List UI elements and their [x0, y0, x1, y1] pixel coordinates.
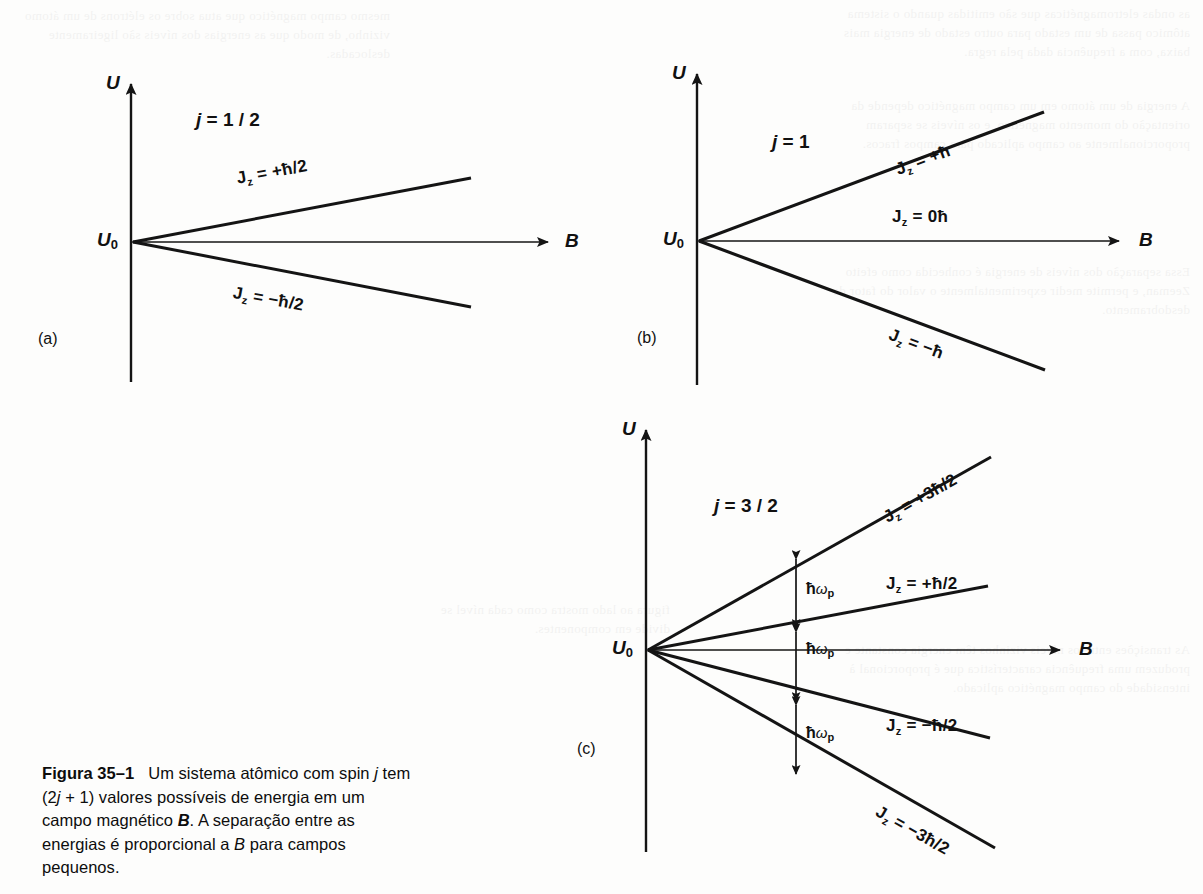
panel-b-origin-subscript: 0	[677, 236, 684, 251]
panel-c-y-axis-label: U	[622, 418, 636, 440]
panel-a-spin-symbol: j	[196, 109, 201, 130]
panel-a-level-label-plus-half: Jz = +ħ/2	[235, 156, 309, 190]
panel-a-level-label-minus-half: Jz = −ħ/2	[231, 283, 305, 317]
panel-a-level-plus-half	[133, 178, 471, 242]
panel-b-spin-symbol: j	[772, 131, 777, 152]
panel-b-level-label-plus-hbar: Jz = +ħ	[893, 141, 954, 181]
panel-c-spin-label: j = 3 / 2	[714, 495, 778, 517]
panel-c-spacing-label-top: ħωp	[806, 580, 834, 599]
panel-a-x-axis-label: B	[565, 230, 579, 252]
panel-b-y-axis-label: U	[672, 62, 686, 84]
figure-caption: Figura 35–1 Um sistema atômico com spin …	[42, 762, 414, 880]
panel-a-origin-letter: U	[97, 229, 111, 250]
panel-b-spin-value: = 1	[783, 131, 810, 152]
panel-b-x-axis-label: B	[1139, 229, 1153, 251]
panel-b-level-plus-hbar	[699, 112, 1044, 241]
jz-value: = −3ħ/2	[891, 812, 953, 858]
jz-value: = −ħ/2	[252, 287, 306, 315]
panel-b-level-minus-hbar	[699, 241, 1045, 370]
panel-c-artwork	[646, 430, 1060, 852]
jz-value: = +3ħ/2	[898, 470, 960, 516]
panel-a-y-axis-label: U	[106, 72, 120, 94]
jz-subscript: z	[241, 294, 249, 307]
panel-b-tag: (b)	[637, 329, 657, 347]
panel-c-tag: (c)	[577, 740, 596, 758]
panel-b-spin-label: j = 1	[772, 131, 810, 153]
jz-value: = +ħ/2	[255, 156, 309, 184]
panel-c-level-label-minus-half: Jz = −ħ/2	[886, 716, 958, 737]
figure-caption-line-1: Figura 35–1 Um sistema atômico com spin …	[42, 764, 410, 876]
panel-c-spin-symbol: j	[714, 495, 719, 516]
jz-subscript: z	[896, 725, 902, 737]
panel-c-level-label-minus-three-half: Jz = −3ħ/2	[872, 802, 953, 860]
panel-b-level-label-zero-hbar: Jz = 0ħ	[892, 207, 948, 228]
panel-a-tag: (a)	[38, 330, 58, 348]
jz-subscript: z	[896, 583, 902, 595]
panel-c-spacing-label-bottom: ħωp	[806, 724, 834, 743]
jz-subscript: z	[246, 175, 254, 188]
page-bleedthrough-bottom-mid: figura ao lado mostra como cada nível se…	[430, 600, 670, 638]
jz-symbol: J	[886, 716, 896, 735]
panel-c-level-minus-three-half	[648, 650, 995, 848]
panel-c-spacing-label-middle: ħωp	[806, 640, 834, 659]
panel-a-origin-subscript: 0	[111, 237, 118, 252]
page-bleedthrough-bottom-right: As transições entre os níveis vizinhos t…	[820, 640, 1190, 697]
page-bleedthrough-mid-right: A energia de um átomo em um campo magnét…	[820, 96, 1190, 153]
omega-symbol: ω	[816, 724, 828, 741]
panel-a-artwork	[131, 84, 548, 382]
panel-c-x-axis-label: B	[1079, 638, 1093, 660]
omega-subscript: p	[827, 587, 834, 599]
panel-a-origin-label: U0	[97, 229, 118, 252]
omega-symbol: ω	[816, 640, 828, 657]
hbar-symbol: ħ	[806, 724, 816, 741]
page-bleedthrough-top-right: as ondas eletromagnéticas que são emitid…	[820, 4, 1190, 61]
panel-b-origin-label: U0	[663, 228, 684, 251]
jz-value: = −ħ	[906, 332, 947, 362]
panel-b-origin-letter: U	[663, 228, 677, 249]
panel-a-spin-value: = 1 / 2	[207, 109, 260, 130]
hbar-symbol: ħ	[806, 640, 816, 657]
omega-symbol: ω	[816, 580, 828, 597]
figure-page: mesmo campo magnético que atua sobre os …	[0, 0, 1203, 894]
page-bleedthrough-lower-right: Essa separação dos níveis de energia é c…	[820, 262, 1190, 319]
jz-symbol: J	[892, 207, 902, 226]
panel-a-spin-label: j = 1 / 2	[196, 109, 260, 131]
hbar-symbol: ħ	[806, 580, 816, 597]
panel-c-origin-subscript: 0	[626, 645, 633, 660]
jz-symbol: J	[886, 574, 896, 593]
jz-value: = +ħ/2	[907, 574, 958, 593]
panel-b-level-label-minus-hbar: Jz = −ħ	[886, 325, 947, 365]
page-bleedthrough-top-left: mesmo campo magnético que atua sobre os …	[10, 6, 390, 63]
panel-c-origin-letter: U	[612, 637, 626, 658]
figure-caption-number: Figura 35–1	[42, 764, 134, 782]
figure-artwork	[0, 0, 1203, 894]
jz-value: = 0ħ	[913, 207, 949, 226]
jz-value: = −ħ/2	[907, 716, 958, 735]
panel-c-level-label-plus-half: Jz = +ħ/2	[886, 574, 958, 595]
jz-value: = +ħ	[912, 141, 953, 171]
panel-c-origin-label: U0	[612, 637, 633, 660]
panel-c-level-label-plus-three-half: Jz = +3ħ/2	[880, 470, 961, 528]
omega-subscript: p	[827, 731, 834, 743]
omega-subscript: p	[827, 647, 834, 659]
jz-subscript: z	[902, 216, 908, 228]
panel-c-spin-value: = 3 / 2	[725, 495, 778, 516]
